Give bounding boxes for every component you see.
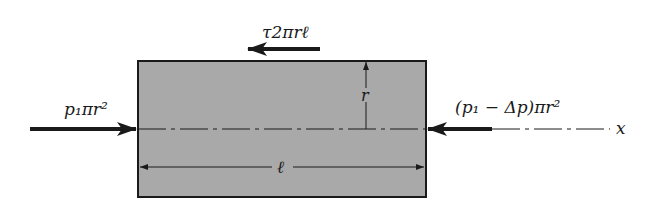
radius-label: r (361, 86, 370, 105)
shear-force-label: τ2πrℓ (262, 22, 309, 42)
free-body-diagram: τ2πrℓ p₁πr² (p₁ − Δp)πr² x r ℓ (0, 0, 646, 214)
left-pressure-label: p₁πr² (64, 99, 108, 119)
length-label: ℓ (277, 157, 284, 177)
right-pressure-label: (p₁ − Δp)πr² (455, 97, 560, 117)
x-axis-label: x (616, 118, 626, 138)
